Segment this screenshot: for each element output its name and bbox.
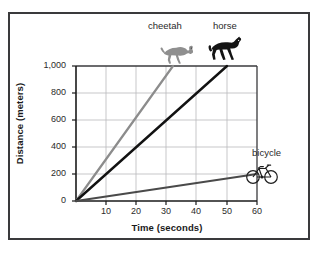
x-tick-label-40: 40 (182, 206, 210, 216)
series-label-horse: horse (213, 20, 237, 31)
series-label-cheetah: cheetah (148, 20, 182, 31)
axis-lines (76, 66, 257, 201)
y-axis-title: Distance (meters) (14, 69, 25, 179)
distance-time-line-chart (0, 0, 322, 255)
x-tick-label-10: 10 (92, 206, 120, 216)
x-tick-label-60: 60 (243, 206, 271, 216)
y-tick-label-1000: 1,000 (26, 60, 66, 70)
x-axis-title: Time (seconds) (76, 222, 258, 233)
horse-icon (209, 36, 242, 60)
series-label-bicycle: bicycle (252, 147, 281, 158)
y-tick-label-0: 0 (26, 195, 66, 205)
series-line-cheetah (76, 66, 173, 201)
x-tick-label-30: 30 (152, 206, 180, 216)
x-tick-label-20: 20 (122, 206, 150, 216)
y-tick-label-800: 800 (26, 87, 66, 97)
y-tick-label-400: 400 (26, 141, 66, 151)
x-tick-label-50: 50 (213, 206, 241, 216)
y-tick-label-600: 600 (26, 114, 66, 124)
plot-frame (76, 66, 257, 201)
chart-figure: 1,000 800 600 400 200 0 10 20 30 40 50 6… (0, 0, 322, 255)
y-tick-label-200: 200 (26, 168, 66, 178)
cheetah-icon (161, 46, 194, 64)
